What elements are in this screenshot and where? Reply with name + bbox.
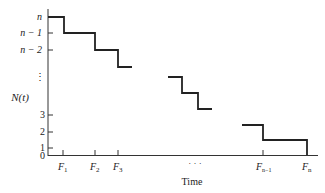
x-tick-label-f2: F2 [89,161,100,174]
y-tick-label-n: n [37,11,42,22]
y-tick-label-n-minus-1: n − 1 [20,27,42,38]
y-tick-label-3: 3 [40,109,45,120]
steps-middle [168,77,212,109]
y-tick-label-2: 2 [40,126,45,137]
x-axis-title: Time [182,176,203,187]
y-axis-title: N(t) [10,91,29,104]
steps-start [48,17,132,67]
x-tick-label-f1: F1 [57,161,68,174]
x-tick-labels: F1 F2 F3 Fn−1 Fn [57,161,312,174]
y-tick-label-n-minus-2: n − 2 [20,44,42,55]
y-tick-label-0: 0 [40,150,45,161]
axes [48,9,318,156]
x-tick-label-fn-minus-1: Fn−1 [255,161,272,173]
steps-end [242,125,307,155]
step-series [48,17,307,155]
y-tick-labels: n n − 1 n − 2 ⋮ 3 2 1 0 [20,11,45,161]
x-tick-label-f3: F3 [112,161,123,174]
y-tick-vertical-ellipsis: ⋮ [35,71,45,82]
x-axis-ellipsis: · · · [188,158,202,168]
step-function-diagram: n n − 1 n − 2 ⋮ 3 2 1 0 N(t) F1 F2 F3 Fn… [0,0,325,193]
x-tick-label-fn: Fn [301,161,312,174]
